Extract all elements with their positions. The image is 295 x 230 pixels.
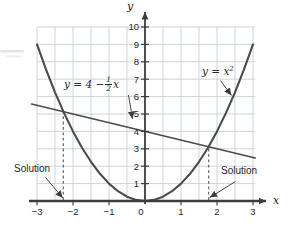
parabola-equation-label: y = x2 <box>202 65 234 77</box>
graph-canvas: 12345678910−3−2−10123 <box>0 0 295 230</box>
x-axis-letter: x <box>273 194 279 207</box>
y-tick-label: 9 <box>134 39 139 50</box>
y-tick-label: 3 <box>134 143 139 154</box>
parabola-equation-exponent: 2 <box>229 65 233 73</box>
photo-smudge <box>0 50 24 53</box>
line-equation-arrow <box>129 95 133 119</box>
graph-figure: 12345678910−3−2−10123 y = 4 −12x y = x2 … <box>0 0 295 230</box>
x-tick-label: 2 <box>214 206 219 217</box>
x-tick-label: −1 <box>104 206 115 217</box>
y-tick-label: 10 <box>128 21 139 32</box>
y-axis-letter: y <box>127 0 133 13</box>
solution-right-label: Solution <box>221 165 257 176</box>
y-tick-label: 8 <box>134 56 139 67</box>
y-tick-label: 1 <box>134 178 139 189</box>
parabola-equation-arrow <box>221 81 232 96</box>
y-tick-label: 5 <box>134 108 139 119</box>
x-tick-label: 3 <box>250 206 255 217</box>
x-tick-label: 0 <box>138 206 143 217</box>
solution-left-arrow <box>46 178 63 199</box>
y-tick-label: 2 <box>134 161 139 172</box>
parabola-equation-base: y = x <box>202 65 229 77</box>
x-tick-label: −3 <box>32 206 43 217</box>
line-equation-label: y = 4 −12x <box>64 76 119 94</box>
solution-left-label: Solution <box>14 163 50 174</box>
y-tick-label: 7 <box>134 74 139 85</box>
x-tick-label: −2 <box>68 206 79 217</box>
line-equation-suffix: x <box>113 78 119 90</box>
y-tick-label: 4 <box>134 126 139 137</box>
x-tick-label: 1 <box>178 206 183 217</box>
y-tick-label: 6 <box>134 91 139 102</box>
fraction: 12 <box>105 76 112 94</box>
photo-smudge <box>6 56 21 58</box>
fraction-denominator: 2 <box>105 85 112 93</box>
line-equation-prefix: y = 4 − <box>64 78 104 90</box>
